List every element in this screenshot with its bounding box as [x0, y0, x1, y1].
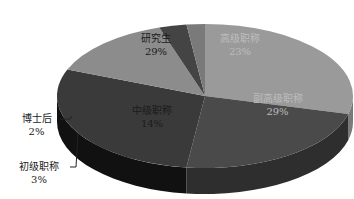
label-junior-title: 初级职称 3%	[10, 160, 68, 186]
label-pct: 29%	[131, 45, 181, 58]
label-name: 副高级职称	[240, 92, 315, 105]
label-name: 高级职称	[210, 32, 270, 45]
label-pct: 29%	[240, 105, 315, 118]
label-pct: 23%	[210, 45, 270, 58]
label-senior-title: 高级职称 23%	[210, 32, 270, 58]
label-postdoc: 博士后 2%	[14, 112, 59, 138]
label-associate-senior-title: 副高级职称 29%	[240, 92, 315, 118]
label-pct: 14%	[122, 117, 182, 130]
label-intermediate-title: 中级职称 14%	[122, 104, 182, 130]
label-name: 研究生	[131, 32, 181, 45]
label-graduate: 研究生 29%	[131, 32, 181, 58]
label-pct: 3%	[10, 173, 68, 186]
label-name: 博士后	[14, 112, 59, 125]
label-name: 初级职称	[10, 160, 68, 173]
label-name: 中级职称	[122, 104, 182, 117]
label-pct: 2%	[14, 125, 59, 138]
